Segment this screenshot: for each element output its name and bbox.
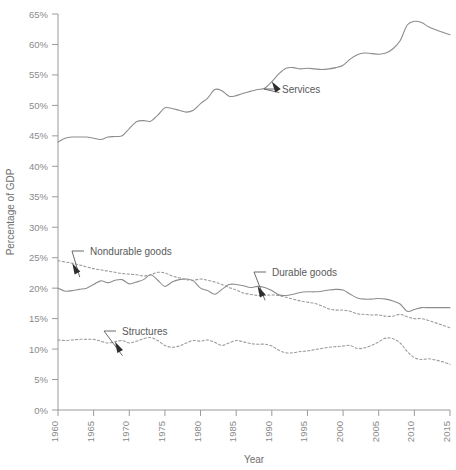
annotation-label-durable-goods: Durable goods [272, 267, 337, 278]
y-tick-label: 35% [29, 191, 49, 202]
y-tick-label: 25% [29, 252, 49, 263]
y-tick-label: 20% [29, 283, 49, 294]
x-tick-label: 1980 [192, 421, 203, 442]
y-tick-label: 65% [29, 9, 49, 20]
gdp-composition-chart: 0%5%10%15%20%25%30%35%40%45%50%55%60%65%… [0, 0, 456, 470]
y-tick-label: 40% [29, 161, 49, 172]
x-tick-label: 2000 [334, 421, 345, 442]
y-axis: 0%5%10%15%20%25%30%35%40%45%50%55%60%65%… [5, 9, 58, 416]
x-tick-label: 1970 [120, 421, 131, 442]
y-tick-label: 55% [29, 69, 49, 80]
x-tick-label: 1995 [298, 421, 309, 442]
x-tick-label: 2005 [370, 421, 381, 442]
series-group [58, 21, 450, 364]
x-tick-label: 1975 [156, 421, 167, 442]
chart-svg: 0%5%10%15%20%25%30%35%40%45%50%55%60%65%… [0, 0, 456, 470]
x-tick-label: 1990 [263, 421, 274, 442]
annotation-label-nondurable-goods: Nondurable goods [90, 246, 172, 257]
x-tick-label: 1965 [85, 421, 96, 442]
series-line-services [58, 21, 450, 142]
y-axis-title: Percentage of GDP [5, 168, 16, 255]
series-line-structures [58, 337, 450, 364]
y-tick-label: 45% [29, 130, 49, 141]
x-tick-label: 2015 [441, 421, 452, 442]
y-tick-label: 10% [29, 344, 49, 355]
series-line-durable-goods [58, 275, 450, 312]
series-line-nondurable-goods [58, 261, 450, 328]
y-tick-group: 0%5%10%15%20%25%30%35%40%45%50%55%60%65% [29, 9, 58, 416]
y-tick-label: 30% [29, 222, 49, 233]
x-tick-group: 1960196519701975198019851990199520002005… [49, 410, 452, 442]
y-tick-label: 15% [29, 313, 49, 324]
y-tick-label: 0% [34, 405, 48, 416]
y-tick-label: 50% [29, 100, 49, 111]
x-axis-title: Year [244, 454, 265, 465]
x-tick-label: 1960 [49, 421, 60, 442]
y-tick-label: 60% [29, 39, 49, 50]
annotation-leader-nondurable-goods [72, 251, 84, 277]
annotation-group: ServicesNondurable goodsDurable goodsStr… [72, 82, 337, 356]
x-axis: 1960196519701975198019851990199520002005… [49, 410, 452, 465]
annotation-label-services: Services [282, 84, 320, 95]
x-tick-label: 1985 [227, 421, 238, 442]
annotation-label-structures: Structures [122, 326, 168, 337]
x-tick-label: 2010 [405, 421, 416, 442]
y-tick-label: 5% [34, 374, 48, 385]
